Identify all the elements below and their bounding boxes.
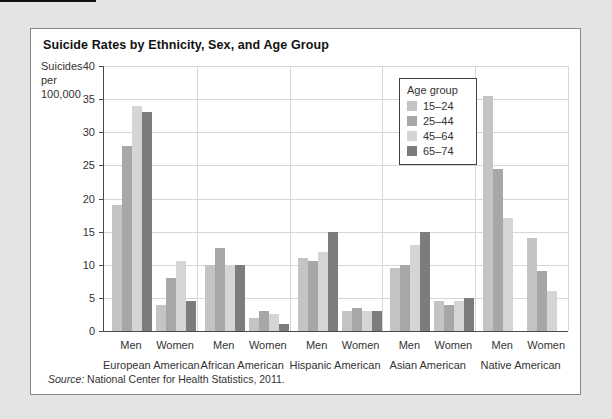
bar-african-american-women-15-24 xyxy=(249,318,259,331)
group-label-african-american: African American xyxy=(196,359,289,371)
page: { "page": { "background_color": "#e4e4e2… xyxy=(0,0,612,419)
group-label-european-american: European American xyxy=(103,359,196,371)
source-note: Source: National Center for Health Stati… xyxy=(48,373,285,385)
legend-swatch-45-64-icon xyxy=(407,131,417,141)
y-tick-label-20: 20 xyxy=(69,193,95,205)
y-tick-mark-20 xyxy=(99,199,103,200)
y-tick-mark-40 xyxy=(99,66,103,67)
bar-european-american-men-15-24 xyxy=(112,205,122,331)
figure-panel: Suicide Rates by Ethnicity, Sex, and Age… xyxy=(30,28,581,395)
bar-european-american-men-65-74 xyxy=(142,112,152,331)
legend-swatch-15-24-icon xyxy=(407,101,417,111)
legend-label-25-44: 25–44 xyxy=(423,115,454,127)
bar-hispanic-american-women-15-24 xyxy=(342,311,352,331)
gridline-y-35 xyxy=(104,99,568,100)
group-separator-3 xyxy=(382,66,383,331)
bar-native-american-men-15-24 xyxy=(483,96,493,331)
y-tick-label-0: 0 xyxy=(69,325,95,337)
bar-hispanic-american-men-15-24 xyxy=(298,258,308,331)
group-separator-1 xyxy=(197,66,198,331)
bar-european-american-women-25-44 xyxy=(166,278,176,331)
bar-european-american-women-15-24 xyxy=(156,305,166,332)
legend-label-15-24: 15–24 xyxy=(423,100,454,112)
bar-african-american-men-25-44 xyxy=(215,248,225,331)
bar-european-american-women-65-74 xyxy=(186,301,196,331)
bar-native-american-men-45-64 xyxy=(503,218,513,331)
y-tick-label-25: 25 xyxy=(69,159,95,171)
y-tick-mark-5 xyxy=(99,298,103,299)
legend-entry-25-44: 25–44 xyxy=(407,115,469,127)
bar-asian-american-women-15-24 xyxy=(434,301,444,331)
legend-entry-45-64: 45–64 xyxy=(407,130,469,142)
y-tick-label-35: 35 xyxy=(69,93,95,105)
y-tick-label-40: 40 xyxy=(69,60,95,72)
y-tick-mark-25 xyxy=(99,165,103,166)
legend-swatch-25-44-icon xyxy=(407,116,417,126)
bar-african-american-women-45-64 xyxy=(269,314,279,331)
bar-african-american-women-65-74 xyxy=(279,324,289,331)
y-tick-label-30: 30 xyxy=(69,126,95,138)
bar-asian-american-men-65-74 xyxy=(420,232,430,331)
y-tick-label-5: 5 xyxy=(69,292,95,304)
bar-hispanic-american-men-65-74 xyxy=(328,232,338,331)
y-tick-mark-15 xyxy=(99,232,103,233)
figure-title: Suicide Rates by Ethnicity, Sex, and Age… xyxy=(43,38,329,52)
y-tick-mark-35 xyxy=(99,99,103,100)
y-tick-mark-30 xyxy=(99,132,103,133)
bar-native-american-women-45-64 xyxy=(547,291,557,331)
legend-swatch-65-74-icon xyxy=(407,146,417,156)
source-label: Source: xyxy=(48,373,84,385)
bar-hispanic-american-men-25-44 xyxy=(308,261,318,331)
gridline-y-30 xyxy=(104,132,568,133)
top-edge-rule xyxy=(0,0,96,2)
legend-entry-65-74: 65–74 xyxy=(407,145,469,157)
group-label-hispanic-american: Hispanic American xyxy=(289,359,382,371)
y-tick-mark-10 xyxy=(99,265,103,266)
gridline-y-25 xyxy=(104,165,568,166)
bar-european-american-men-45-64 xyxy=(132,106,142,331)
y-axis-label-line-2: per xyxy=(41,73,83,87)
plot-right-edge xyxy=(568,66,569,331)
bar-hispanic-american-women-45-64 xyxy=(362,311,372,331)
legend-label-45-64: 45–64 xyxy=(423,130,454,142)
y-tick-label-10: 10 xyxy=(69,259,95,271)
legend-entry-15-24: 15–24 xyxy=(407,100,469,112)
x-label-women-4: Women xyxy=(516,339,576,351)
bar-native-american-women-15-24 xyxy=(527,238,537,331)
bar-african-american-men-45-64 xyxy=(225,265,235,331)
y-tick-mark-0 xyxy=(99,331,103,332)
legend-title: Age group xyxy=(407,84,469,96)
gridline-y-40 xyxy=(104,66,568,67)
legend-label-65-74: 65–74 xyxy=(423,145,454,157)
source-text: National Center for Health Statistics, 2… xyxy=(84,373,285,385)
bar-hispanic-american-women-25-44 xyxy=(352,308,362,331)
bar-asian-american-women-45-64 xyxy=(454,301,464,331)
bar-african-american-women-25-44 xyxy=(259,311,269,331)
bar-asian-american-men-45-64 xyxy=(410,245,420,331)
group-label-native-american: Native American xyxy=(474,359,567,371)
bar-european-american-men-25-44 xyxy=(122,146,132,332)
group-label-asian-american: Asian American xyxy=(381,359,474,371)
plot-area: Age group 15–24 25–44 45–64 65–74 xyxy=(103,66,568,332)
group-separator-2 xyxy=(290,66,291,331)
y-tick-label-15: 15 xyxy=(69,226,95,238)
bar-hispanic-american-women-65-74 xyxy=(372,311,382,331)
bar-european-american-women-45-64 xyxy=(176,261,186,331)
bar-african-american-men-65-74 xyxy=(235,265,245,331)
bar-african-american-men-15-24 xyxy=(205,265,215,331)
legend: Age group 15–24 25–44 45–64 65–74 xyxy=(399,78,477,165)
bar-native-american-men-25-44 xyxy=(493,169,503,331)
bar-native-american-women-25-44 xyxy=(537,271,547,331)
bar-asian-american-men-15-24 xyxy=(390,268,400,331)
bar-hispanic-american-men-45-64 xyxy=(318,252,328,332)
bar-asian-american-women-65-74 xyxy=(464,298,474,331)
bar-asian-american-women-25-44 xyxy=(444,305,454,332)
bar-asian-american-men-25-44 xyxy=(400,265,410,331)
